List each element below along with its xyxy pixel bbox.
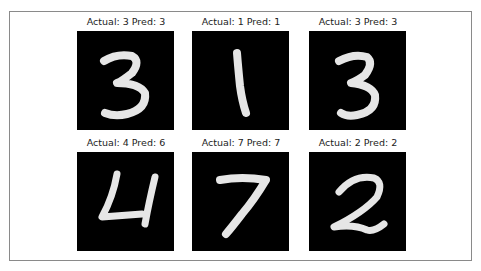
digit-image [77,31,174,130]
digit-2-icon [309,152,406,251]
digit-3-icon [77,31,174,130]
digit-image [309,152,406,251]
panel-title: Actual: 2 Pred: 2 [289,137,427,148]
digit-image [192,31,289,130]
panel-title: Actual: 3 Pred: 3 [289,16,427,27]
digit-image [309,31,406,130]
digit-1-icon [192,31,289,130]
digit-image [192,152,289,251]
digit-3-icon [309,31,406,130]
digit-7-icon [192,152,289,251]
digit-image [77,152,174,251]
digit-4-icon [77,152,174,251]
